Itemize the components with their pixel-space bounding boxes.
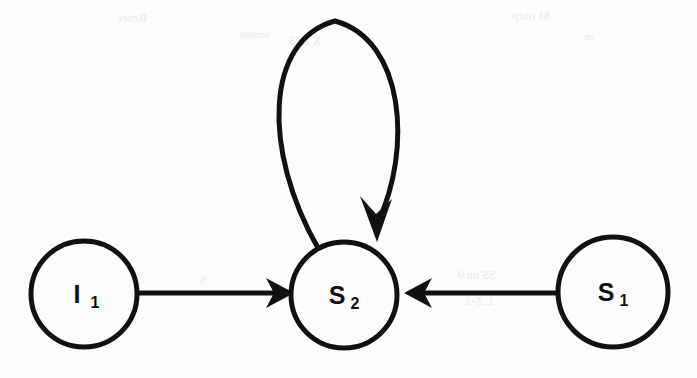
transition-s1-to-s2[interactable] [404, 278, 557, 308]
initial-state-node[interactable]: I 1 [31, 241, 137, 347]
state-node-s1[interactable]: S 1 [558, 237, 668, 347]
state-node-s1-label: S [598, 278, 615, 306]
transition-i1-to-s2[interactable] [139, 278, 294, 308]
initial-state-node-label: I [74, 280, 81, 308]
state-node-s2[interactable]: S 2 [291, 242, 397, 348]
diagram-graphics: I 1 S 2 S 1 [0, 0, 697, 378]
self-loop-s2[interactable] [279, 21, 398, 248]
state-node-s2-label-subscript: 2 [351, 295, 360, 312]
initial-state-node-label-subscript: 1 [91, 294, 100, 311]
state-diagram-canvas: Reset enable X 0.5S M outp or clock / re… [0, 0, 697, 378]
state-node-s1-label-subscript: 1 [620, 292, 629, 309]
initial-state-node-circle [31, 241, 137, 347]
state-node-s2-label: S [329, 281, 346, 309]
